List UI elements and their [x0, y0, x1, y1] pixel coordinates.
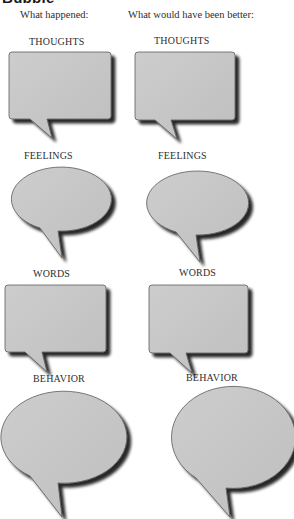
thoughts-bubble-right[interactable] [135, 52, 235, 139]
words-bubble-right[interactable] [149, 285, 248, 373]
speech-bubbles-canvas [0, 0, 294, 519]
behavior-bubble-right[interactable] [171, 386, 294, 517]
words-bubble-left[interactable] [5, 285, 106, 372]
behavior-bubble-left[interactable] [1, 391, 127, 517]
thoughts-bubble-left[interactable] [9, 52, 111, 138]
feelings-bubble-right[interactable] [147, 171, 249, 262]
feelings-bubble-left[interactable] [11, 167, 111, 258]
